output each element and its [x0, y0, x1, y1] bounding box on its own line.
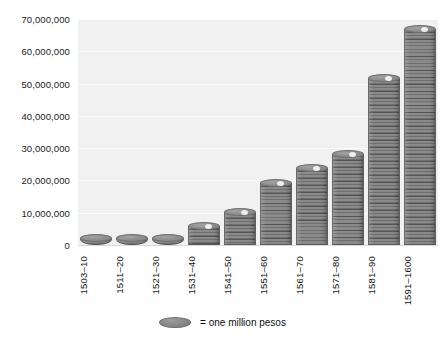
coin-stack-icon — [332, 154, 364, 245]
x-axis-tick-text: 1503–10 — [78, 256, 89, 294]
y-axis-tick-label: 30,000,000 — [21, 143, 70, 154]
bar-1541–50 — [222, 212, 258, 245]
coin-stack-icon — [224, 212, 256, 245]
y-axis-tick-label: 20,000,000 — [21, 175, 70, 186]
x-axis-tick-text: 1581–90 — [366, 256, 377, 294]
bar-1503–10 — [78, 238, 114, 245]
x-axis: 1503–101511–201521–301531–401541–501551–… — [78, 247, 438, 315]
y-axis-tick-label: 60,000,000 — [21, 46, 70, 57]
legend-label: = one million pesos — [200, 317, 286, 328]
coin-top-face — [80, 234, 112, 242]
coin-top-face — [152, 234, 184, 242]
x-axis-tick-label: 1581–90 — [366, 251, 402, 269]
coin-top-notch — [385, 76, 392, 81]
x-axis-tick-label: 1561–70 — [294, 251, 330, 269]
coin-stack-icon — [296, 168, 328, 245]
x-axis-tick-label: 1541–50 — [222, 251, 258, 269]
bar-series — [78, 19, 438, 245]
coin-stack-icon — [368, 78, 400, 245]
coin-stack-icon — [80, 238, 112, 245]
x-axis-tick-text: 1511–20 — [114, 256, 125, 294]
x-axis-tick-text: 1561–70 — [294, 256, 305, 294]
coin-stack-icon — [159, 317, 191, 328]
bar-1551–60 — [258, 183, 294, 245]
coin-top-face — [116, 234, 148, 242]
y-axis-tick-label: 50,000,000 — [21, 78, 70, 89]
coin-top-notch — [277, 181, 284, 186]
y-axis-tick-label: 0 — [65, 240, 70, 251]
x-axis-tick-label: 1571–80 — [330, 251, 366, 269]
x-axis-tick-label: 1511–20 — [114, 251, 150, 269]
coin-top-notch — [205, 224, 212, 229]
x-axis-tick-text: 1571–80 — [330, 256, 341, 294]
x-axis-tick-label: 1503–10 — [78, 251, 114, 269]
bar-1581–90 — [366, 78, 402, 245]
coin-stack-icon — [404, 29, 436, 245]
y-axis-tick-label: 70,000,000 — [21, 14, 70, 25]
y-axis-tick-label: 40,000,000 — [21, 110, 70, 121]
legend: = one million pesos — [0, 317, 445, 328]
coin-stack-bar-chart: 010,000,00020,000,00030,000,00040,000,00… — [0, 0, 445, 339]
coin-top-notch — [241, 210, 248, 215]
coin-top-notch — [349, 152, 356, 157]
bar-1561–70 — [294, 168, 330, 245]
x-axis-tick-text: 1551–60 — [258, 256, 269, 294]
coin-stack-icon — [152, 238, 184, 245]
coin-stack-icon — [116, 238, 148, 245]
coin-top-notch — [313, 166, 320, 171]
y-axis: 010,000,00020,000,00030,000,00040,000,00… — [0, 0, 76, 252]
coin-stack-icon — [188, 226, 220, 245]
x-axis-tick-text: 1541–50 — [222, 256, 233, 294]
x-axis-baseline — [78, 245, 438, 246]
x-axis-tick-text: 1521–30 — [150, 256, 161, 294]
bar-1591–1600 — [402, 29, 438, 245]
x-axis-tick-text: 1591–1600 — [402, 256, 413, 305]
x-axis-tick-label: 1551–60 — [258, 251, 294, 269]
bar-1531–40 — [186, 226, 222, 245]
bar-1511–20 — [114, 238, 150, 245]
bar-1571–80 — [330, 154, 366, 245]
x-axis-tick-text: 1531–40 — [186, 256, 197, 294]
x-axis-tick-label: 1531–40 — [186, 251, 222, 269]
x-axis-tick-label: 1521–30 — [150, 251, 186, 269]
y-axis-tick-label: 10,000,000 — [21, 207, 70, 218]
x-axis-tick-label: 1591–1600 — [402, 251, 438, 269]
coin-stack-icon — [260, 183, 292, 245]
bar-1521–30 — [150, 238, 186, 245]
